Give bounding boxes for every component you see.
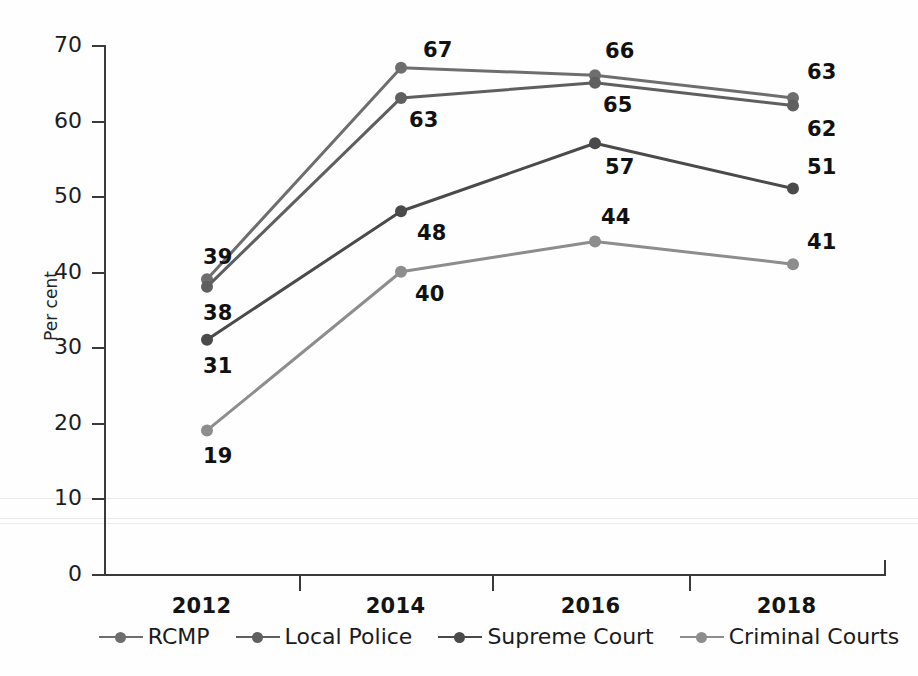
series-marker-local-police [201, 281, 213, 293]
data-label-rcmp-2012: 39 [203, 245, 233, 269]
data-label-supreme-court-2012: 31 [203, 354, 233, 378]
data-label-supreme-court-2018: 51 [807, 155, 837, 179]
legend-dot-icon [115, 632, 126, 643]
data-label-criminal-courts-2016: 44 [601, 205, 631, 229]
series-marker-criminal-courts [201, 424, 213, 436]
series-marker-criminal-courts [589, 235, 601, 247]
legend-label: RCMP [148, 624, 210, 649]
legend-marker-icon [680, 629, 724, 645]
legend-item-supreme-court[interactable]: Supreme Court [438, 624, 653, 649]
data-label-local-police-2016: 65 [603, 93, 633, 117]
data-label-local-police-2014: 63 [409, 108, 439, 132]
footer-caption [150, 663, 910, 676]
legend-label: Local Police [285, 624, 413, 649]
series-marker-supreme-court [395, 205, 407, 217]
series-marker-local-police [589, 77, 601, 89]
data-label-local-police-2012: 38 [203, 301, 233, 325]
data-label-rcmp-2018: 63 [807, 60, 837, 84]
data-label-rcmp-2014: 67 [423, 38, 453, 62]
series-marker-supreme-court [201, 334, 213, 346]
series-line-supreme-court [207, 143, 793, 339]
legend-dot-icon [696, 632, 707, 643]
series-marker-criminal-courts [395, 266, 407, 278]
series-line-criminal-courts [207, 241, 793, 430]
legend-marker-icon [438, 629, 482, 645]
data-label-local-police-2018: 62 [807, 117, 837, 141]
legend-item-rcmp[interactable]: RCMP [99, 624, 210, 649]
legend-dot-icon [454, 632, 465, 643]
legend-dot-icon [252, 632, 263, 643]
series-marker-criminal-courts [787, 258, 799, 270]
series-marker-supreme-court [787, 183, 799, 195]
data-label-rcmp-2016: 66 [605, 39, 635, 63]
data-label-criminal-courts-2014: 40 [415, 282, 445, 306]
legend-marker-icon [236, 629, 280, 645]
legend-marker-icon [99, 629, 143, 645]
series-marker-rcmp [395, 62, 407, 74]
series-line-rcmp [207, 68, 793, 280]
legend-item-criminal-courts[interactable]: Criminal Courts [680, 624, 900, 649]
data-label-criminal-courts-2018: 41 [807, 230, 837, 254]
chart-page: 010203040506070 Per cent 201220142016201… [0, 0, 918, 676]
chart-legend: RCMPLocal PoliceSupreme CourtCriminal Co… [104, 624, 894, 649]
series-marker-supreme-court [589, 137, 601, 149]
data-label-supreme-court-2014: 48 [417, 221, 447, 245]
data-label-supreme-court-2016: 57 [605, 155, 635, 179]
legend-label: Supreme Court [487, 624, 653, 649]
series-marker-local-police [395, 92, 407, 104]
data-label-criminal-courts-2012: 19 [203, 444, 233, 468]
legend-item-local-police[interactable]: Local Police [236, 624, 413, 649]
series-marker-local-police [787, 99, 799, 111]
plot-area [0, 0, 918, 676]
legend-label: Criminal Courts [729, 624, 900, 649]
